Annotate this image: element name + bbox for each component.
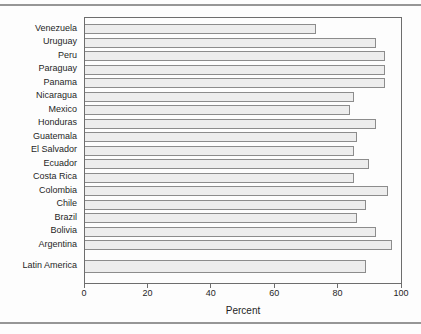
label-latin-america: Latin America	[0, 260, 80, 271]
bar-guatemala	[85, 132, 357, 142]
bottom-rule	[0, 322, 421, 324]
x-tick-label-80: 80	[325, 288, 351, 298]
label-guatemala: Guatemala	[0, 131, 80, 142]
bar-el-salvador	[85, 146, 354, 156]
bar-uruguay	[85, 38, 376, 48]
bar-argentina	[85, 240, 392, 250]
bar-ecuador	[85, 159, 369, 169]
figure: VenezuelaUruguayPeruParaguayPanamaNicara…	[0, 0, 421, 334]
x-axis-title: Percent	[84, 305, 402, 316]
bar-bolivia	[85, 227, 376, 237]
bar-costa-rica	[85, 173, 354, 183]
bar-honduras	[85, 119, 376, 129]
bar-chile	[85, 200, 366, 210]
x-tick-label-20: 20	[134, 288, 160, 298]
x-tick-label-0: 0	[71, 288, 97, 298]
bar-venezuela	[85, 24, 316, 34]
top-rule	[0, 4, 421, 6]
bar-nicaragua	[85, 92, 354, 102]
label-chile: Chile	[0, 198, 80, 209]
label-uruguay: Uruguay	[0, 36, 80, 47]
label-venezuela: Venezuela	[0, 23, 80, 34]
label-honduras: Honduras	[0, 117, 80, 128]
x-tick-label-100: 100	[388, 288, 414, 298]
x-tick-label-40: 40	[198, 288, 224, 298]
label-bolivia: Bolivia	[0, 225, 80, 236]
plot-area	[84, 17, 402, 284]
bar-panama	[85, 78, 385, 88]
bar-mexico	[85, 105, 350, 115]
label-colombia: Colombia	[0, 185, 80, 196]
label-nicaragua: Nicaragua	[0, 90, 80, 101]
label-costa-rica: Costa Rica	[0, 171, 80, 182]
label-el-salvador: El Salvador	[0, 144, 80, 155]
label-brazil: Brazil	[0, 212, 80, 223]
bar-latin-america	[85, 260, 366, 273]
bar-brazil	[85, 213, 357, 223]
x-tick-label-60: 60	[261, 288, 287, 298]
bar-paraguay	[85, 65, 385, 75]
label-mexico: Mexico	[0, 104, 80, 115]
label-ecuador: Ecuador	[0, 158, 80, 169]
label-panama: Panama	[0, 77, 80, 88]
label-argentina: Argentina	[0, 239, 80, 250]
label-peru: Peru	[0, 50, 80, 61]
label-paraguay: Paraguay	[0, 63, 80, 74]
bar-colombia	[85, 186, 388, 196]
bar-peru	[85, 51, 385, 61]
